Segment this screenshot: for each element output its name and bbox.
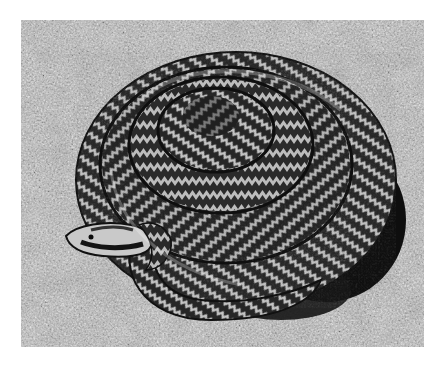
snake-photograph bbox=[21, 20, 424, 347]
snake-eye bbox=[89, 235, 94, 240]
photo-canvas bbox=[21, 20, 424, 347]
